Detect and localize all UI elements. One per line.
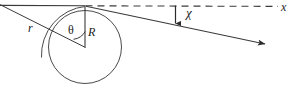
scattering-diagram-figure: r θ R χ x [0,0,293,90]
diagram-canvas [0,0,293,90]
label-x-axis: x [281,1,286,13]
label-chi: χ [186,6,192,19]
label-R: R [88,26,95,38]
outer-arc [41,6,85,57]
angle-arc-theta [74,32,86,40]
dashed-x-axis [86,6,279,7]
label-r: r [28,22,33,34]
label-theta: θ [68,24,74,36]
